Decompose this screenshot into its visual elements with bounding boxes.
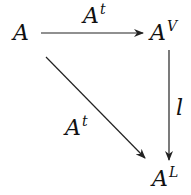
node-AV: AV bbox=[150, 22, 177, 44]
edge-label-vertical: l bbox=[176, 97, 183, 119]
arrow-A-to-AL bbox=[46, 57, 145, 158]
edge-label-diagonal: At bbox=[65, 117, 88, 139]
commutative-diagram: A AV AL At l At bbox=[0, 0, 191, 195]
edge-label-top: At bbox=[83, 5, 106, 27]
node-A: A bbox=[13, 22, 29, 44]
node-AL: AL bbox=[152, 168, 178, 190]
